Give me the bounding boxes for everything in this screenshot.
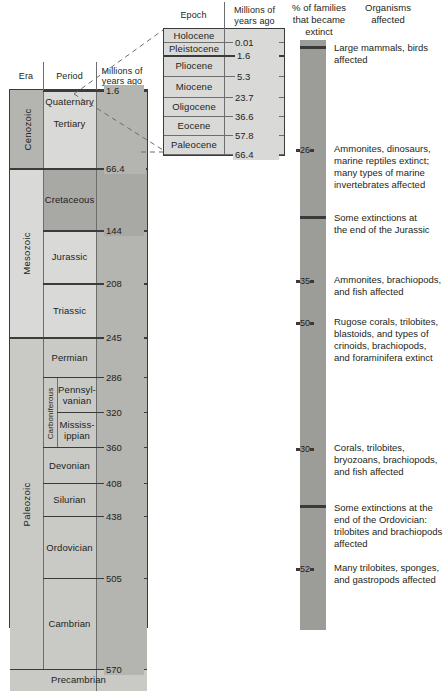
epoch-eocene: Eocene [164,117,224,136]
epoch-table: Epoch Millions of years ago Holocene Ple… [163,2,285,156]
tick-mark-right-30 [310,448,314,451]
period-silurian: Silurian [43,484,96,517]
epoch-age-0.01: 0.01 [233,37,279,48]
period-cambrian: Cambrian [43,579,96,670]
era-label-mesozoic: Mesozoic [10,169,43,338]
age-label-286: 286 [104,372,144,383]
epoch-header-epoch: Epoch [163,2,224,29]
age-label-438: 438 [104,511,144,522]
epoch-miocene: Miocene [164,77,224,98]
age-label-1.6: 1.6 [104,85,144,96]
extinction-intensity-bar [300,40,326,630]
tick-mark-right-26 [310,149,314,152]
period-ordovician: Ordovician [43,517,96,579]
carboniferous-label: Carboniferous [44,378,58,448]
era-label-cenozoic: Cenozoic [10,90,43,169]
tick-mark-right-52 [310,568,314,571]
era-label-paleozoic: Paleozoic [10,338,43,670]
extinction-tick-26: 26 [296,145,314,155]
epoch-age-5.3: 5.3 [235,71,279,82]
period-pennsylvanian: Pennsyl- vanian [58,378,96,413]
age-label-208: 208 [104,278,144,289]
epoch-age-36.6: 36.6 [233,111,279,122]
period-jurassic: Jurassic [43,231,96,284]
era-header-period: Period [43,62,96,90]
era-header-era: Era [9,62,43,90]
extinction-note-permian: Rugose corals, trilobites, blastoids, an… [334,316,446,365]
epoch-oligocene: Oligocene [164,98,224,117]
period-tertiary: Tertiary [43,113,96,135]
epoch-age-57.8: 57.8 [233,130,279,141]
epoch-pliocene: Pliocene [164,56,224,77]
age-label-320: 320 [104,407,144,418]
tick-mark-right-50 [310,322,314,325]
epoch-paleocene: Paleocene [164,136,224,155]
epoch-header-ma: Millions of years ago [224,2,285,29]
extinction-note-kt: Ammonites, dinosaurs, marine reptiles ex… [334,143,442,192]
extinction-band-jurassic [300,216,326,219]
age-label-505: 505 [104,573,144,584]
extinction-note-large-mammals: Large mammals, birds affected [334,42,442,66]
ma-bg-cenozoic [96,90,147,169]
extinction-tick-30: 30 [296,444,314,454]
period-quaternary: Quaternary [43,91,96,113]
epoch-holocene: Holocene [164,29,224,43]
era-period-table: Era Period Millions of years ago Cenozoi… [9,62,148,628]
extinction-tick-52: 52 [296,564,314,574]
extinction-note-ordovician: Some extinctions at the end of the Ordov… [334,502,446,551]
age-label-144: 144 [104,225,144,236]
extinction-note-jurassic: Some extinctions at the end of the Juras… [334,212,442,236]
period-mississippian: Mississ- ippian [58,413,96,448]
extinction-note-cambrian: Many trilobites, sponges, and gastropods… [334,562,446,586]
ma-bg-cretaceous [96,169,147,231]
epoch-ma-divider [224,2,225,155]
extinction-tick-35: 35 [296,276,314,286]
ma-bg-paleozoic [96,338,147,670]
period-triassic: Triassic [43,284,96,338]
period-permian: Permian [43,338,96,378]
age-label-66.4: 66.4 [104,163,146,174]
extinction-note-devonian: Corals, trilobites, bryozoans, brachiopo… [334,442,446,478]
extinction-header-organisms: Organisms affected [352,2,424,26]
extinction-header-percent: % of families that became extinct [288,2,350,38]
age-label-360: 360 [104,442,144,453]
extinction-note-triassic: Ammonites, brachiopods, and fish affecte… [334,274,442,298]
tick-mark-right-35 [310,280,314,283]
extinction-band-ordovician [300,505,326,508]
period-devonian: Devonian [43,448,96,484]
extinction-band-large-mammals [300,46,326,49]
age-label-570: 570 [104,664,144,675]
epoch-age-23.7: 23.7 [233,92,279,103]
age-label-408: 408 [104,478,144,489]
age-label-245: 245 [104,332,144,343]
epoch-age-66.4: 66.4 [233,149,279,160]
period-cretaceous: Cretaceous [43,169,96,231]
epoch-age-1.6: 1.6 [235,50,279,61]
extinction-tick-50: 50 [296,318,314,328]
